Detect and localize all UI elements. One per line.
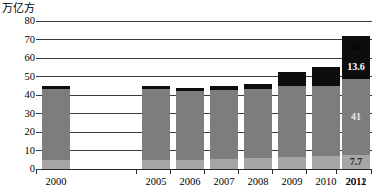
y-axis-tick-label: 30 — [7, 109, 35, 119]
x-tick-mark-2007 — [204, 170, 205, 174]
bar-segment-2005-mid-gray-segment[interactable] — [142, 89, 170, 159]
y-axis-tick-label: 40 — [7, 90, 35, 100]
x-tick-mark-2012 — [336, 170, 337, 174]
x-tick-mark-2000 — [36, 170, 37, 174]
x-axis-label-2012: 2012 — [336, 176, 376, 188]
y-tick-mark-50 — [36, 76, 41, 77]
bar-segment-2010-light-gray-segment[interactable] — [312, 156, 340, 169]
bar-segment-2000-black-segment[interactable] — [42, 86, 70, 89]
y-tick-mark-40 — [36, 95, 41, 96]
bar-segment-2008-mid-gray-segment[interactable] — [244, 89, 272, 157]
x-tick-mark-2010 — [306, 170, 307, 174]
y-tick-mark-30 — [36, 113, 41, 114]
y-axis-unit-label: 万亿方 — [2, 2, 35, 15]
bar-segment-2006-mid-gray-segment[interactable] — [176, 91, 204, 159]
y-axis-tick-label: 70 — [7, 35, 35, 45]
x-tick-mark-2009 — [272, 170, 273, 174]
y-tick-mark-60 — [36, 58, 41, 59]
y-tick-mark-10 — [36, 150, 41, 151]
bar-segment-2007-mid-gray-segment[interactable] — [210, 90, 238, 159]
bar-2007[interactable] — [210, 86, 238, 169]
x-tick-mark-2005 — [136, 170, 137, 174]
bar-2012[interactable]: 7.74113.662 — [342, 54, 370, 169]
bar-segment-2000-mid-gray-segment[interactable] — [42, 89, 70, 160]
y-axis-tick-label: 10 — [7, 146, 35, 156]
y-axis-tick-label: 0 — [7, 164, 35, 174]
bar-segment-2005-light-gray-segment[interactable] — [142, 160, 170, 169]
x-tick-mark-end — [371, 170, 372, 174]
bar-segment-2007-black-segment[interactable] — [210, 86, 238, 91]
y-tick-mark-80 — [36, 21, 41, 22]
x-axis-line — [38, 169, 372, 170]
y-axis-tick-label: 50 — [7, 72, 35, 82]
y-tick-mark-70 — [36, 39, 41, 40]
data-label-2012-black-segment: 13.6 — [342, 61, 370, 72]
plot-area: 23.47.74113.662 — [38, 21, 372, 169]
x-tick-mark-2006 — [170, 170, 171, 174]
bar-segment-2008-black-segment[interactable] — [244, 84, 272, 90]
bar-segment-2000-light-gray-segment[interactable] — [42, 160, 70, 169]
bar-segment-2009-mid-gray-segment[interactable] — [278, 86, 306, 157]
gridline-70 — [38, 39, 372, 40]
gridline-80 — [38, 21, 372, 22]
bar-segment-2012-black-segment[interactable]: 13.6 — [342, 54, 370, 79]
data-label-2012-mid-gray-segment: 41 — [342, 111, 370, 122]
total-label-2012: 62 — [342, 41, 370, 52]
bar-2005[interactable] — [142, 86, 170, 169]
bar-segment-2006-light-gray-segment[interactable] — [176, 160, 204, 169]
data-label-2012-light-gray-segment: 7.7 — [342, 156, 370, 167]
gridline-60 — [38, 58, 372, 59]
bar-segment-2005-black-segment[interactable] — [142, 86, 170, 90]
bar-segment-2008-light-gray-segment[interactable] — [244, 158, 272, 169]
bar-2010[interactable] — [312, 67, 340, 169]
x-tick-mark-2008 — [238, 170, 239, 174]
bar-segment-2009-light-gray-segment[interactable] — [278, 157, 306, 169]
bar-segment-2010-mid-gray-segment[interactable] — [312, 86, 340, 156]
bar-segment-2007-light-gray-segment[interactable] — [210, 159, 238, 169]
bar-2009[interactable] — [278, 72, 306, 169]
stacked-bar-chart: 万亿方 23.47.74113.662 20002005200620072008… — [0, 0, 376, 195]
bar-segment-2012-mid-gray-segment[interactable]: 41 — [342, 79, 370, 155]
bar-2000[interactable] — [42, 86, 70, 169]
bar-2006[interactable] — [176, 88, 204, 169]
bar-segment-2009-black-segment[interactable] — [278, 72, 306, 86]
y-axis-tick-label: 20 — [7, 127, 35, 137]
x-axis-label-2000: 2000 — [36, 176, 76, 188]
bar-segment-2006-black-segment[interactable] — [176, 88, 204, 92]
y-tick-mark-20 — [36, 132, 41, 133]
y-axis-tick-label: 60 — [7, 53, 35, 63]
bar-segment-2012-light-gray-segment[interactable]: 7.7 — [342, 155, 370, 169]
y-axis-tick-label: 80 — [7, 16, 35, 26]
bar-segment-2010-black-segment[interactable] — [312, 67, 340, 86]
x-axis: 200020052006200720082009201020112012 — [38, 169, 372, 195]
bar-2008[interactable] — [244, 84, 272, 169]
y-tick-mark-0 — [36, 169, 41, 170]
